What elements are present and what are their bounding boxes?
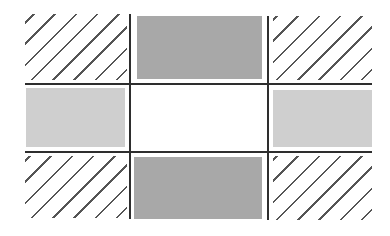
cell-top-center-rect: [137, 16, 262, 79]
cell-middle-left-rect: [26, 88, 125, 147]
grid-line-horizontal-bottom: [25, 151, 372, 153]
cell-bottom-right-hatched: [273, 156, 372, 220]
cell-center-empty: [133, 87, 266, 150]
cell-top-left-hatched: [25, 14, 127, 80]
grid-line-horizontal-top: [25, 83, 372, 85]
cell-top-right-hatched: [273, 16, 372, 80]
cell-bottom-center-rect: [134, 157, 262, 219]
cell-bottom-left-hatched: [25, 156, 127, 218]
grid-line-vertical-left: [129, 14, 131, 219]
tiling-diagram: [0, 0, 390, 236]
cell-middle-right-rect: [273, 90, 372, 147]
grid-line-vertical-right: [267, 16, 269, 220]
